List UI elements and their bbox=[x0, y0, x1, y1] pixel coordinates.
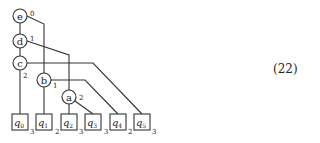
node-e-label: e bbox=[17, 11, 23, 22]
node-e-index: 0 bbox=[30, 10, 34, 18]
node-d-label: d bbox=[17, 36, 24, 47]
leaf-q4-index: 2 bbox=[128, 128, 132, 136]
node-c-index: 2 bbox=[23, 72, 27, 80]
leaf-q0-index: 3 bbox=[30, 128, 34, 136]
leaf-q1-index: 2 bbox=[55, 128, 59, 136]
node-b-index: 1 bbox=[53, 82, 57, 90]
leaf-q2-index: 3 bbox=[79, 128, 83, 136]
edge-e-b bbox=[27, 16, 44, 73]
edge-b-q4 bbox=[51, 80, 118, 114]
leaf-q5-index: 3 bbox=[152, 128, 156, 136]
node-b-label: b bbox=[41, 75, 47, 86]
node-a-index: 2 bbox=[79, 94, 83, 102]
equation-number: (22) bbox=[273, 62, 298, 76]
tree-diagram: e d c b a 0 1 2 1 2 q0 q1 q2 q3 q4 q5 3 … bbox=[0, 0, 320, 143]
node-d-index: 1 bbox=[30, 35, 34, 43]
node-a-label: a bbox=[66, 92, 72, 103]
leaf-q3-index: 3 bbox=[104, 128, 108, 136]
node-c-label: c bbox=[17, 58, 23, 69]
edge-a-q3 bbox=[75, 101, 93, 114]
